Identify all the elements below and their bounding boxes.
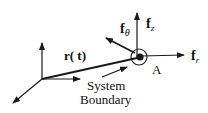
position-vector-label: r( t) <box>64 48 86 63</box>
point-a-label: A <box>152 62 162 77</box>
y-axis <box>13 79 42 103</box>
force-theta-arrow <box>106 38 135 53</box>
system-boundary-label-line1: System <box>87 78 125 93</box>
boundary-pointer-arrow <box>102 67 127 77</box>
system-boundary-label-line2: Boundary <box>80 92 132 107</box>
point-a <box>131 49 147 65</box>
force-diagram: r( t) fz fθ fr A System Boundary <box>0 0 208 113</box>
force-r-label: fr <box>191 48 200 65</box>
force-theta-label: fθ <box>120 21 130 38</box>
force-z-label: fz <box>146 16 155 33</box>
mass-point <box>136 53 143 60</box>
